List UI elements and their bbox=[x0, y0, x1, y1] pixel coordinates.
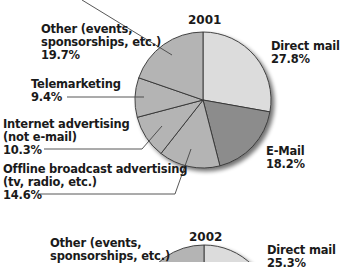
pie-2002-title: 2002 bbox=[189, 230, 222, 244]
pie-slice bbox=[204, 245, 272, 262]
label-email-value: 18.2% bbox=[266, 158, 305, 171]
pie-2001-title: 2001 bbox=[188, 13, 221, 27]
label-other: Other (events, sponsorships, etc.) 19.7% bbox=[41, 23, 161, 62]
label-direct-value: 27.8% bbox=[271, 53, 340, 66]
label-internet: Internet advertising (not e-mail) 10.3% bbox=[3, 118, 130, 157]
pie-slice bbox=[203, 32, 271, 112]
label-offline-value: 14.6% bbox=[3, 189, 187, 202]
label-direct-mail: Direct mail 27.8% bbox=[271, 40, 340, 66]
label-offline-broadcast: Offline broadcast advertising (tv, radio… bbox=[3, 163, 187, 202]
label-telemarketing-value: 9.4% bbox=[31, 91, 121, 104]
label-2002-other: Other (events, sponsorships, etc.) bbox=[50, 237, 170, 263]
label-2002-direct-value: 25.3% bbox=[267, 257, 336, 270]
label-2002-other-line2: sponsorships, etc.) bbox=[50, 250, 170, 263]
label-internet-value: 10.3% bbox=[3, 144, 130, 157]
label-telemarketing: Telemarketing 9.4% bbox=[31, 78, 121, 104]
label-other-value: 19.7% bbox=[41, 49, 161, 62]
label-email: E-Mail 18.2% bbox=[266, 145, 305, 171]
label-2002-direct-mail: Direct mail 25.3% bbox=[267, 244, 336, 270]
